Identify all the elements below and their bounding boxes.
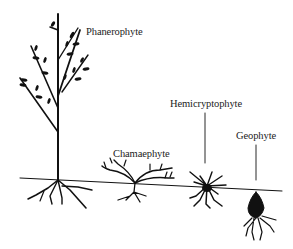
diagram-drawing: [0, 0, 293, 249]
geophyte-plant: [244, 145, 276, 240]
hemicryptophyte-plant: [190, 113, 226, 208]
label-hemicryptophyte: Hemicryptophyte: [170, 98, 242, 109]
chamaephyte-plant: [102, 158, 174, 202]
label-chamaephyte: Chamaephyte: [113, 148, 170, 159]
life-forms-diagram: Phanerophyte Chamaephyte Hemicryptophyte…: [0, 0, 293, 249]
label-geophyte: Geophyte: [236, 130, 276, 141]
label-phanerophyte: Phanerophyte: [86, 26, 143, 37]
